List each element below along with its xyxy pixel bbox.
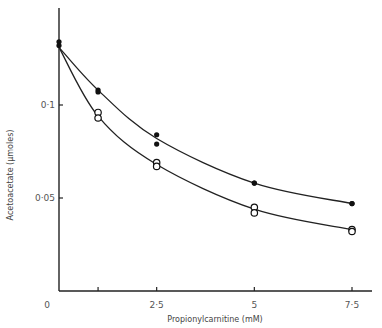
filled-circle-marker	[349, 201, 354, 206]
filled-circle-marker	[154, 132, 159, 137]
curve-filled-circle	[59, 47, 352, 203]
filled-circle-marker	[252, 181, 257, 186]
fitted-curves	[59, 47, 352, 229]
open-circle-marker	[95, 115, 101, 121]
x-tick-label: 2·5	[150, 300, 164, 310]
filled-circle-marker	[95, 89, 100, 94]
chart: 2·557·50·050·10 Propionylcarnitine (mM) …	[0, 0, 382, 328]
x-axis-title: Propionylcarnitine (mM)	[167, 315, 263, 324]
curve-open-circle	[59, 47, 352, 229]
open-circle-marker	[251, 210, 257, 216]
y-tick-label: 0·1	[41, 100, 55, 110]
y-axis-title: Acetoacetate (µmoles)	[6, 130, 15, 221]
filled-circle-marker	[56, 43, 61, 48]
y-tick-label: 0·05	[35, 193, 55, 203]
x-tick-label: 5	[251, 300, 257, 310]
axes: 2·557·50·050·10	[35, 8, 372, 310]
x-tick-label: 7·5	[345, 300, 359, 310]
open-circle-marker	[349, 228, 355, 234]
open-circle-marker	[153, 163, 159, 169]
origin-label: 0	[44, 300, 50, 310]
data-markers	[56, 39, 355, 235]
plot-area: 2·557·50·050·10 Propionylcarnitine (mM) …	[0, 0, 382, 328]
filled-circle-marker	[154, 141, 159, 146]
